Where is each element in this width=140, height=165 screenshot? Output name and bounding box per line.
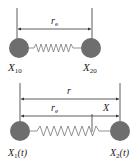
re-label: re [51,15,58,28]
mass-x10 [9,38,29,58]
mass-x2 [110,121,130,141]
top-spring [28,44,82,52]
re-label-bottom: re [51,102,58,115]
top-panel: re X10 X20 [7,8,101,75]
bottom-panel: r re X X1(t) X2(t) [7,83,130,160]
spring-mass-diagram: re X10 X20 r re X X1(t) X2(t) [0,0,140,165]
x2-label: X2(t) [109,147,130,160]
mass-x20 [81,38,101,58]
x-displacement-label: X [102,102,110,113]
mass-x1 [10,121,30,141]
x20-label: X20 [82,61,97,75]
re-arrowhead-left [18,28,21,31]
re-arrowhead-left-bottom [21,115,24,118]
x1-label: X1(t) [7,147,28,160]
re-arrowhead-right [88,28,91,31]
x10-label: X10 [7,61,22,75]
x-arrowhead-right [116,115,119,118]
r-arrowhead-right [116,98,119,101]
r-label: r [67,85,71,96]
bottom-spring [30,126,110,136]
r-arrowhead-left [21,98,24,101]
